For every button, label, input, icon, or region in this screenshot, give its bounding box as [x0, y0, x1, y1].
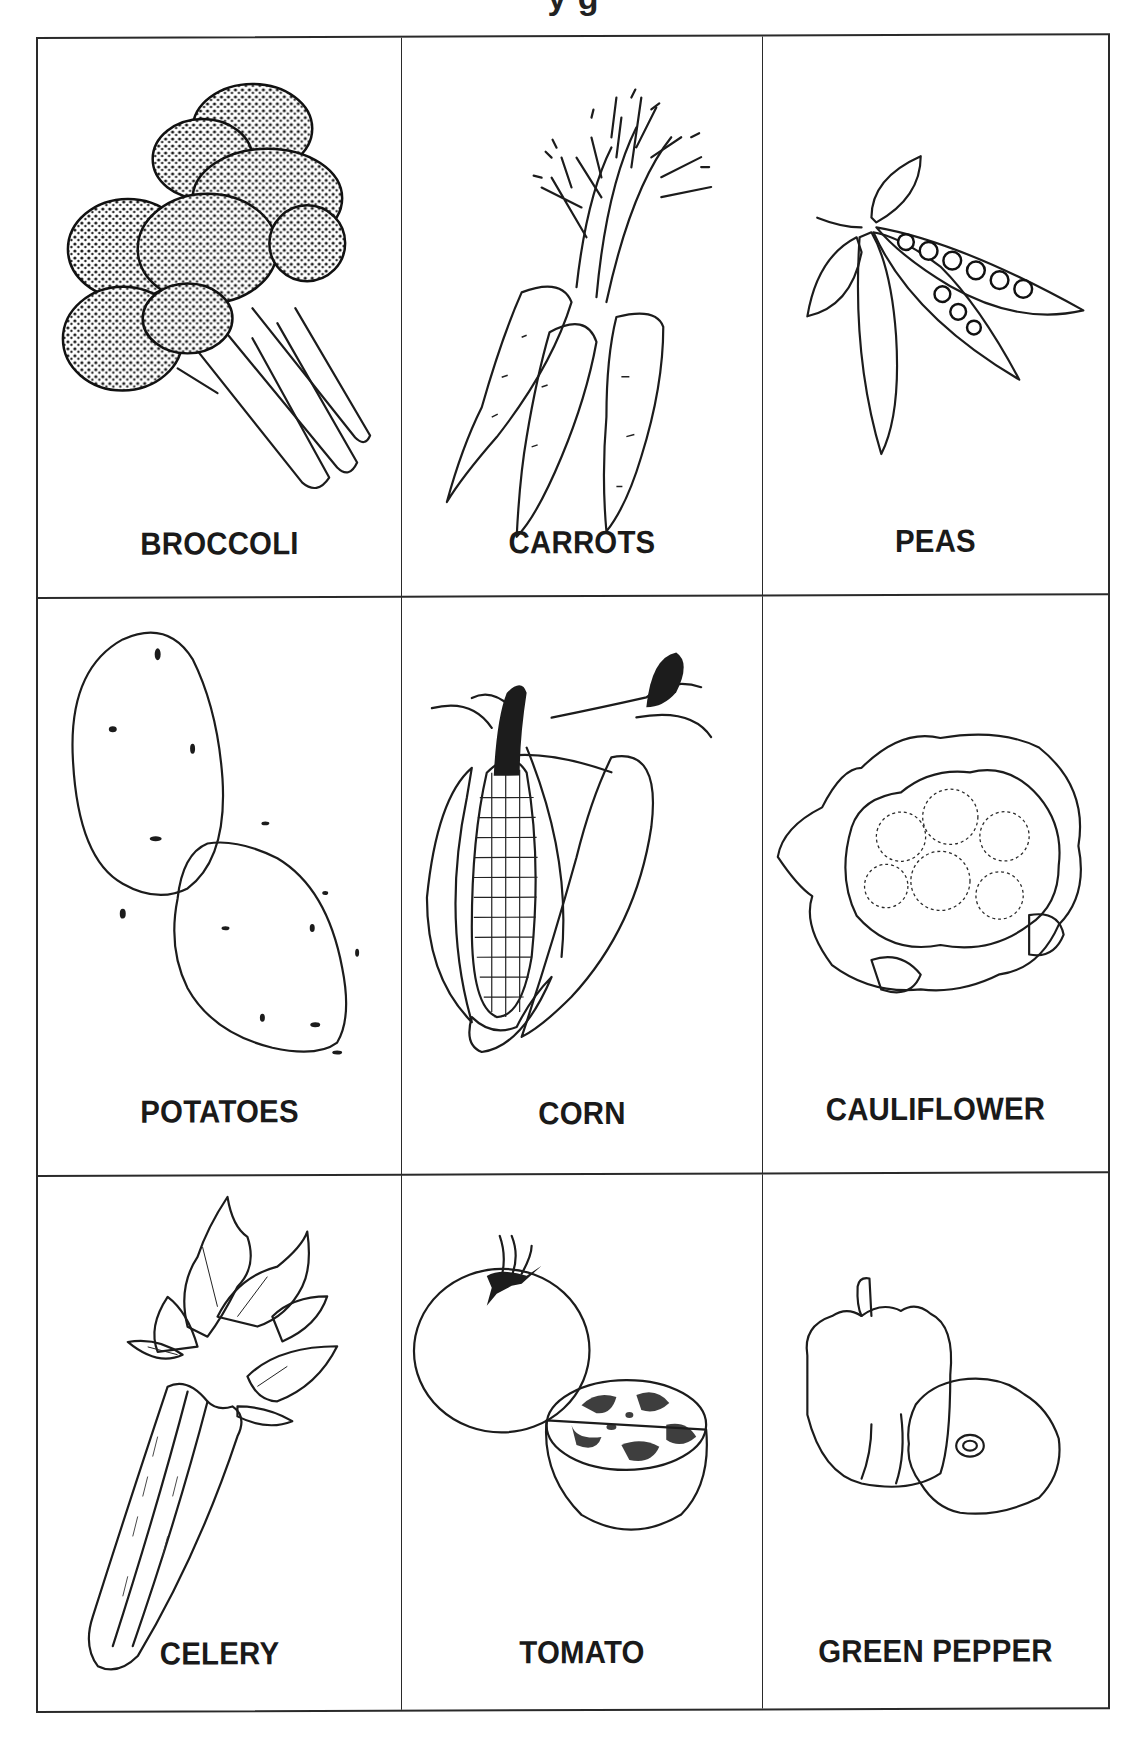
vegetable-card-celery: CELERY	[38, 1176, 402, 1711]
broccoli-icon	[38, 38, 401, 599]
green-pepper-icon	[763, 1173, 1108, 1708]
vegetable-card-green-pepper: GREEN PEPPER	[763, 1173, 1108, 1708]
vegetable-card-cauliflower: CAULIFLOWER	[763, 595, 1108, 1174]
vegetable-label: GREEN PEPPER	[777, 1632, 1094, 1670]
vegetable-card-corn: CORN	[402, 596, 763, 1175]
vegetable-label: TOMATO	[416, 1634, 747, 1672]
vegetable-card-peas: PEAS	[763, 35, 1108, 596]
vegetable-label: CELERY	[53, 1635, 387, 1673]
page-title-cropped: y g	[0, 0, 1147, 17]
vegetable-label: POTATOES	[53, 1093, 387, 1131]
tomato-icon	[402, 1174, 762, 1709]
potatoes-icon	[38, 598, 401, 1177]
carrots-icon	[402, 36, 762, 597]
vegetable-label: CARROTS	[416, 524, 747, 562]
vegetable-grid: BROCCOLI CARROTS	[36, 33, 1110, 1713]
vegetable-label: CAULIFLOWER	[777, 1090, 1094, 1128]
celery-icon	[38, 1176, 401, 1711]
vegetable-label: CORN	[416, 1095, 747, 1133]
vegetable-card-carrots: CARROTS	[402, 36, 763, 597]
corn-icon	[402, 596, 762, 1175]
peas-icon	[763, 35, 1108, 596]
cauliflower-icon	[763, 595, 1108, 1174]
vegetable-label: BROCCOLI	[53, 525, 387, 563]
vegetable-card-broccoli: BROCCOLI	[38, 38, 402, 599]
vegetable-card-potatoes: POTATOES	[38, 598, 402, 1177]
vegetable-label: PEAS	[777, 522, 1094, 560]
vegetable-card-tomato: TOMATO	[402, 1174, 763, 1709]
